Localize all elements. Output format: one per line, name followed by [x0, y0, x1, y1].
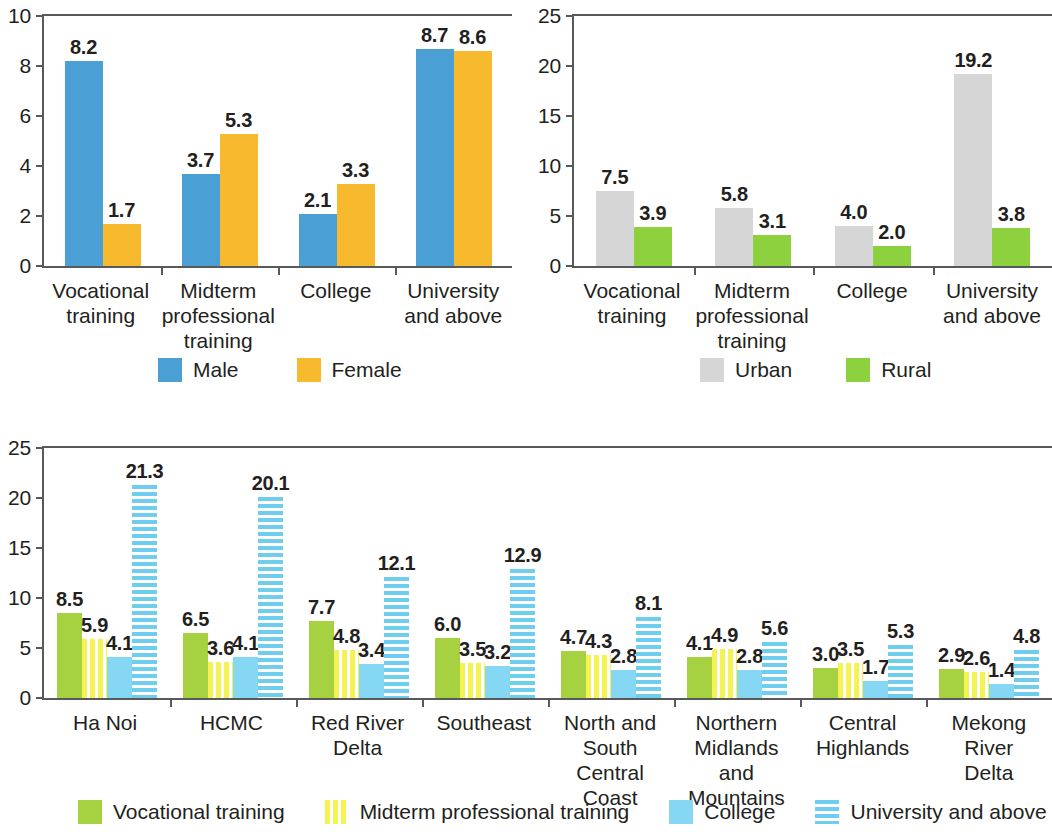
bar-value-label: 4.3: [585, 630, 612, 653]
bar-value-label: 12.9: [504, 544, 542, 567]
bar-college[interactable]: 3.4: [359, 664, 384, 698]
legend-item-university[interactable]: University and above: [815, 800, 1046, 824]
bar-female[interactable]: 8.6: [454, 51, 492, 266]
legend-item-rural[interactable]: Rural: [846, 358, 931, 382]
bar-college[interactable]: 3.2: [485, 666, 510, 698]
x-label-line: University: [934, 278, 1050, 303]
bar-vocational[interactable]: 3.0: [813, 668, 838, 698]
bar-university[interactable]: 8.1: [636, 617, 661, 698]
bar-vocational[interactable]: 6.0: [435, 638, 460, 698]
legend-item-college[interactable]: College: [669, 800, 775, 824]
bar-rural[interactable]: 3.9: [634, 227, 672, 266]
legend-item-midterm[interactable]: Midterm professional training: [325, 800, 630, 824]
bar-university[interactable]: 12.9: [510, 569, 535, 698]
legend-label: Vocational training: [113, 800, 285, 824]
legend-item-male[interactable]: Male: [158, 358, 239, 382]
bar-female[interactable]: 5.3: [220, 134, 258, 267]
legend-swatch-male-icon: [158, 358, 182, 382]
bar-vocational[interactable]: 7.7: [309, 621, 334, 698]
legend-label: Male: [193, 358, 239, 382]
bar-university[interactable]: 12.1: [384, 577, 409, 698]
bar-value-label: 3.4: [358, 639, 385, 662]
legend-swatch-university-icon: [815, 800, 839, 824]
x-label-line: Ha Noi: [44, 710, 166, 735]
bar-value-label: 4.8: [333, 625, 360, 648]
bar-university[interactable]: 5.6: [762, 642, 787, 698]
bar-vocational[interactable]: 2.9: [939, 669, 964, 698]
bar-college[interactable]: 1.4: [989, 684, 1014, 698]
bar-university[interactable]: 5.3: [888, 645, 913, 698]
bar-rural[interactable]: 2.0: [873, 246, 911, 266]
bar-value-label: 2.8: [736, 645, 763, 668]
bar-urban[interactable]: 7.5: [596, 191, 634, 266]
bar-value-label: 5.9: [81, 614, 108, 637]
bar-midterm[interactable]: 2.6: [964, 672, 989, 698]
bar-university[interactable]: 21.3: [132, 485, 157, 698]
bar-group: 6.0 3.5 3.2 12.9: [422, 448, 548, 698]
x-label-line: College: [279, 278, 393, 303]
bar-male[interactable]: 8.7: [416, 49, 454, 267]
bar-midterm[interactable]: 4.9: [712, 649, 737, 698]
bar-midterm[interactable]: 3.6: [208, 662, 233, 698]
bar-value-label: 1.4: [988, 659, 1015, 682]
bar-midterm[interactable]: 3.5: [838, 663, 863, 698]
bar-university[interactable]: 4.8: [1014, 650, 1039, 698]
chart-by-region: 25 20 15 10 5 0 8.5 5.9 4.1 21.3 6.5 3.6…: [0, 432, 1030, 839]
legend-swatch-vocational-icon: [78, 800, 102, 824]
y-tick: 25: [538, 4, 574, 28]
bar-midterm[interactable]: 4.8: [334, 650, 359, 698]
bar-college[interactable]: 2.8: [737, 670, 762, 698]
bar-vocational[interactable]: 8.5: [57, 613, 82, 698]
x-label-midterm: Midterm professional training: [160, 278, 278, 353]
x-label-college: College: [277, 278, 395, 353]
plot-area-by-sex: 10 8 6 4 2 0 8.2 1.7 3.7 5.3 2.1 3.3 8.7…: [42, 14, 512, 268]
legend-label: University and above: [850, 800, 1046, 824]
y-tick: 10: [8, 586, 44, 610]
legend-swatch-urban-icon: [700, 358, 724, 382]
x-label-line: Midterm: [694, 278, 810, 303]
bar-group: 4.1 4.9 2.8 5.6: [674, 448, 800, 698]
x-label-line: Delta: [928, 760, 1050, 785]
bar-rural[interactable]: 3.1: [753, 235, 791, 266]
bar-midterm[interactable]: 3.5: [460, 663, 485, 698]
x-label-line: Delta: [297, 735, 419, 760]
bar-group: 8.5 5.9 4.1 21.3: [44, 448, 170, 698]
bar-vocational[interactable]: 4.7: [561, 651, 586, 698]
bar-male[interactable]: 3.7: [182, 174, 220, 267]
legend-item-vocational[interactable]: Vocational training: [78, 800, 285, 824]
bar-college[interactable]: 1.7: [863, 681, 888, 698]
bar-urban[interactable]: 4.0: [835, 226, 873, 266]
bar-value-label: 3.5: [837, 638, 864, 661]
bar-university[interactable]: 20.1: [258, 497, 283, 698]
bar-value-label: 21.3: [126, 460, 164, 483]
bar-value-label: 4.0: [840, 201, 867, 224]
bar-rural[interactable]: 3.8: [992, 228, 1030, 266]
bar-college[interactable]: 4.1: [233, 657, 258, 698]
bar-value-label: 4.1: [232, 632, 259, 655]
bar-value-label: 2.9: [938, 644, 965, 667]
x-label-line: Highlands: [802, 735, 924, 760]
legend-label: Female: [332, 358, 402, 382]
bar-value-label: 8.2: [70, 36, 97, 59]
bar-college[interactable]: 2.8: [611, 670, 636, 698]
bar-college[interactable]: 4.1: [107, 657, 132, 698]
bar-male[interactable]: 8.2: [65, 61, 103, 266]
bar-female[interactable]: 1.7: [103, 224, 141, 267]
bar-vocational[interactable]: 6.5: [183, 633, 208, 698]
bar-midterm[interactable]: 4.3: [586, 655, 611, 698]
bar-urban[interactable]: 5.8: [715, 208, 753, 266]
bar-value-label: 8.6: [459, 26, 486, 49]
bar-male[interactable]: 2.1: [299, 214, 337, 267]
bar-midterm[interactable]: 5.9: [82, 639, 107, 698]
legend-item-female[interactable]: Female: [297, 358, 402, 382]
legend-swatch-female-icon: [297, 358, 321, 382]
bar-value-label: 5.3: [225, 109, 252, 132]
bar-female[interactable]: 3.3: [337, 184, 375, 267]
y-tick: 25: [8, 436, 44, 460]
legend-item-urban[interactable]: Urban: [700, 358, 792, 382]
bar-value-label: 7.5: [601, 166, 628, 189]
bar-value-label: 2.8: [610, 645, 637, 668]
bar-vocational[interactable]: 4.1: [687, 657, 712, 698]
x-label-line: Red River: [297, 710, 419, 735]
bar-urban[interactable]: 19.2: [954, 74, 992, 266]
